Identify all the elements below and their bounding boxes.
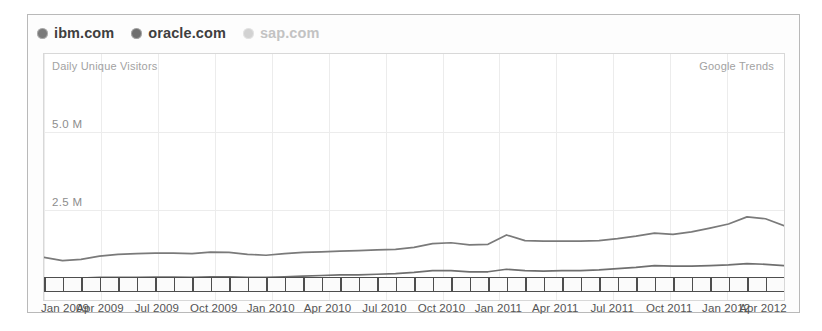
- x-axis-label: Jul 2011: [590, 302, 633, 314]
- axis-tick: [729, 278, 731, 291]
- legend-item-sap-com[interactable]: sap.com: [243, 25, 320, 41]
- axis-tick: [211, 278, 213, 291]
- x-axis-label: Jan 2011: [475, 302, 522, 314]
- axis-tick: [562, 278, 564, 291]
- x-axis-label: Apr 2010: [304, 302, 351, 314]
- axis-tick: [359, 278, 361, 291]
- axis-tick: [636, 278, 638, 291]
- chart-legend: ibm.comoracle.comsap.com: [37, 20, 319, 46]
- x-axis-label: Oct 2011: [646, 302, 693, 314]
- axis-tick: [81, 278, 83, 291]
- axis-tick: [63, 278, 65, 291]
- x-axis-labels: Jan 2009Apr 2009Jul 2009Oct 2009Jan 2010…: [43, 302, 785, 322]
- axis-tick: [322, 278, 324, 291]
- x-axis-label: Apr 2009: [76, 302, 123, 314]
- axis-tick: [747, 278, 749, 291]
- x-axis-label: Jan 2010: [247, 302, 295, 314]
- x-axis-tick-band: [44, 277, 784, 292]
- axis-tick: [266, 278, 268, 291]
- axis-tick: [470, 278, 472, 291]
- axis-tick: [377, 278, 379, 291]
- axis-tick: [599, 278, 601, 291]
- axis-tick: [544, 278, 546, 291]
- x-axis-label: Jul 2009: [135, 302, 179, 314]
- axis-tick: [174, 278, 176, 291]
- axis-tick: [44, 278, 46, 291]
- axis-tick: [340, 278, 342, 291]
- axis-tick: [118, 278, 120, 291]
- axis-tick: [155, 278, 157, 291]
- series-lines: [44, 54, 784, 300]
- axis-tick: [766, 278, 768, 291]
- axis-tick: [673, 278, 675, 291]
- axis-tick: [137, 278, 139, 291]
- axis-tick: [192, 278, 194, 291]
- axis-tick: [692, 278, 694, 291]
- legend-item-ibm-com[interactable]: ibm.com: [37, 25, 114, 41]
- plot-area: 5.0 M2.5 M Daily Unique Visitors Google …: [44, 54, 784, 300]
- axis-tick: [248, 278, 250, 291]
- legend-item-oracle-com[interactable]: oracle.com: [131, 25, 226, 41]
- legend-item-label: oracle.com: [148, 25, 226, 41]
- plot-frame: 5.0 M2.5 M Daily Unique Visitors Google …: [43, 53, 785, 301]
- vertical-gridline: [784, 54, 785, 300]
- series-line-ibm-com: [44, 217, 784, 261]
- legend-item-label: sap.com: [260, 25, 320, 41]
- x-axis-label: Oct 2010: [418, 302, 465, 314]
- circle-marker-icon: [131, 28, 142, 39]
- axis-tick: [451, 278, 453, 291]
- axis-tick: [433, 278, 435, 291]
- axis-tick: [488, 278, 490, 291]
- circle-marker-icon: [243, 28, 254, 39]
- x-axis-label: Jul 2010: [362, 302, 406, 314]
- axis-tick: [229, 278, 231, 291]
- x-axis-label: Oct 2009: [190, 302, 237, 314]
- axis-tick: [303, 278, 305, 291]
- axis-tick: [525, 278, 527, 291]
- axis-tick: [507, 278, 509, 291]
- axis-tick: [784, 278, 785, 291]
- circle-marker-icon: [37, 28, 48, 39]
- axis-tick: [618, 278, 620, 291]
- axis-tick: [710, 278, 712, 291]
- axis-tick: [100, 278, 102, 291]
- axis-tick: [655, 278, 657, 291]
- axis-tick: [414, 278, 416, 291]
- axis-tick: [396, 278, 398, 291]
- axis-tick: [285, 278, 287, 291]
- google-trends-chart-card: ibm.comoracle.comsap.com 5.0 M2.5 M Dail…: [27, 14, 800, 313]
- x-axis-label: Apr 2011: [532, 302, 579, 314]
- legend-item-label: ibm.com: [54, 25, 114, 41]
- axis-tick: [581, 278, 583, 291]
- x-axis-label: Apr 2012: [739, 302, 786, 314]
